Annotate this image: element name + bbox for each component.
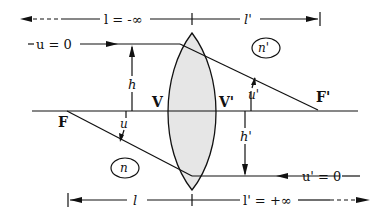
label-l-prime-top: l' (244, 12, 252, 27)
label-n: n (120, 161, 128, 175)
label-vertex-v: V (151, 94, 164, 110)
label-focus-prime: F' (316, 89, 330, 105)
bottom-dimension-line (68, 193, 370, 207)
label-n-prime: n' (258, 41, 269, 55)
label-h-prime: h' (240, 129, 252, 144)
label-vertex-v-prime: V' (218, 94, 234, 110)
lens-diagram: l = -∞ l' u = 0 h V V' u' F' F u h' u' =… (0, 0, 383, 217)
top-dimension-line (20, 12, 320, 26)
label-u-prime-equals-0: u' = 0 (302, 169, 341, 184)
label-u: u (120, 117, 128, 131)
label-u-equals-0: u = 0 (36, 37, 72, 52)
label-l-bottom: l (133, 193, 137, 208)
label-l-prime-plus-infinity: l' = +∞ (243, 193, 292, 208)
label-l-minus-infinity: l = -∞ (104, 12, 143, 27)
label-focus: F (58, 114, 68, 130)
label-u-prime: u' (248, 88, 259, 102)
label-h: h (128, 77, 136, 92)
